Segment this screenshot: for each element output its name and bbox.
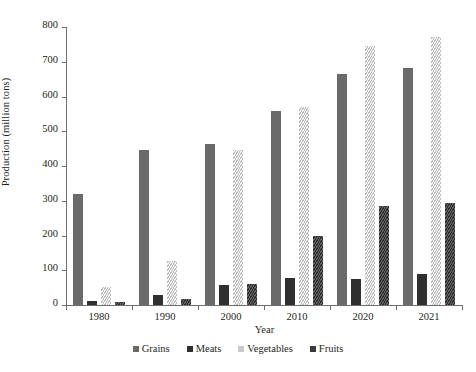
bar-grains-1990 (139, 150, 149, 305)
bar-vegetables-2010 (299, 107, 309, 305)
bar-vegetables-1990 (167, 261, 177, 305)
y-tick-label: 0 (53, 297, 58, 308)
bar-meats-2020 (351, 279, 361, 305)
y-tick-label: 400 (42, 158, 58, 169)
y-axis-tick: 100 (0, 270, 66, 271)
bar-vegetables-2021 (431, 37, 441, 305)
y-axis-tick: 0 (0, 305, 66, 306)
bar-fruits-2000 (247, 284, 257, 305)
y-axis-tick: 700 (0, 62, 66, 63)
x-tick-label: 1990 (135, 311, 195, 322)
y-tick-label: 100 (42, 262, 58, 273)
legend-item-fruits[interactable]: Fruits (310, 343, 344, 354)
legend-swatch-icon (187, 346, 193, 352)
y-tick-label: 200 (42, 228, 58, 239)
bar-grains-2020 (337, 74, 347, 305)
legend-label: Fruits (319, 343, 344, 354)
y-axis-tick: 300 (0, 201, 66, 202)
bar-fruits-1980 (115, 302, 125, 305)
plot-area (66, 27, 462, 305)
bar-fruits-2010 (313, 236, 323, 306)
legend-label: Grains (142, 343, 170, 354)
legend-swatch-icon (133, 346, 139, 352)
x-tick-mark (132, 306, 133, 310)
bar-meats-1980 (87, 301, 97, 305)
legend-item-meats[interactable]: Meats (187, 343, 222, 354)
x-tick-mark (396, 306, 397, 310)
bar-vegetables-2020 (365, 46, 375, 305)
bar-fruits-2021 (445, 203, 455, 306)
bar-meats-2010 (285, 278, 295, 305)
legend-swatch-icon (310, 346, 316, 352)
x-tick-label: 2000 (201, 311, 261, 322)
x-tick-label: 2010 (267, 311, 327, 322)
y-axis-tick: 400 (0, 166, 66, 167)
y-tick-label: 500 (42, 123, 58, 134)
bar-meats-1990 (153, 295, 163, 305)
bar-vegetables-2000 (233, 150, 243, 305)
x-tick-label: 1980 (69, 311, 129, 322)
bar-fruits-2020 (379, 206, 389, 305)
legend-item-grains[interactable]: Grains (133, 343, 170, 354)
bar-chart: Production (million tons) 01002003004005… (0, 0, 476, 372)
y-axis-tick: 600 (0, 97, 66, 98)
bar-meats-2021 (417, 274, 427, 305)
legend-swatch-icon (238, 346, 244, 352)
y-tick-label: 300 (42, 193, 58, 204)
bar-fruits-1990 (181, 299, 191, 305)
bar-meats-2000 (219, 285, 229, 305)
x-tick-mark (264, 306, 265, 310)
y-tick-label: 700 (42, 54, 58, 65)
bar-grains-2021 (403, 68, 413, 305)
x-tick-mark (198, 306, 199, 310)
y-axis-tick: 500 (0, 131, 66, 132)
bar-grains-2010 (271, 111, 281, 305)
y-tick-label: 800 (42, 19, 58, 30)
bar-grains-2000 (205, 144, 215, 305)
bar-vegetables-1980 (101, 287, 111, 305)
x-tick-mark (66, 306, 67, 310)
y-axis-tick: 800 (0, 27, 66, 28)
bar-grains-1980 (73, 194, 83, 305)
x-axis-title: Year (66, 324, 463, 335)
y-tick-label: 600 (42, 89, 58, 100)
x-tick-mark (330, 306, 331, 310)
x-tick-mark (462, 306, 463, 310)
legend-label: Meats (196, 343, 222, 354)
y-axis-tick: 200 (0, 236, 66, 237)
legend-label: Vegetables (247, 343, 292, 354)
x-tick-label: 2021 (399, 311, 459, 322)
chart-legend: GrainsMeatsVegetablesFruits (0, 343, 476, 354)
legend-item-vegetables[interactable]: Vegetables (238, 343, 292, 354)
x-tick-label: 2020 (333, 311, 393, 322)
